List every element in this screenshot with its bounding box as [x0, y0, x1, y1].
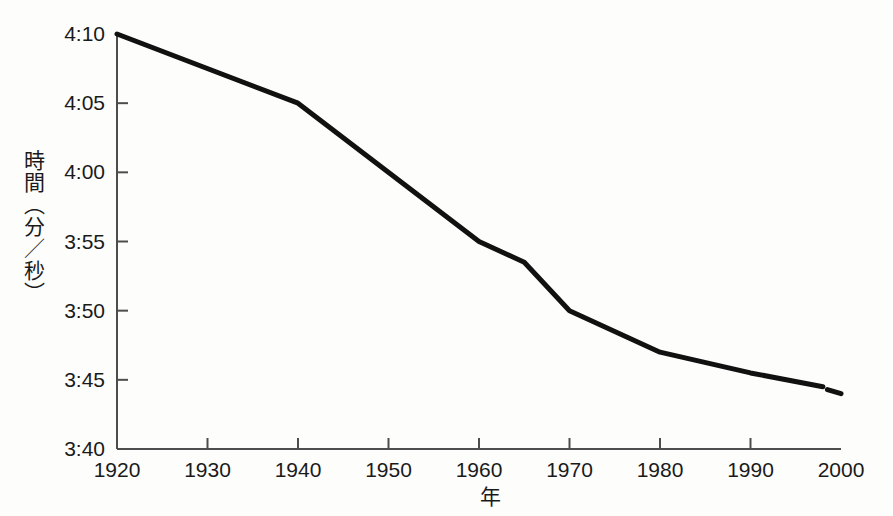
x-axis-title: 年	[462, 480, 518, 510]
chart-background	[0, 0, 893, 516]
y-tick-label: 3:45	[64, 368, 105, 391]
x-tick-label: 1980	[637, 458, 684, 481]
x-tick-label: 1940	[275, 458, 322, 481]
y-tick-label: 3:50	[64, 299, 105, 322]
x-tick-label: 1970	[546, 458, 593, 481]
y-tick-label: 4:10	[64, 22, 105, 45]
y-tick-label: 3:55	[64, 230, 105, 253]
y-tick-label: 4:05	[64, 91, 105, 114]
chart-figure: 3:403:453:503:554:004:054:10 19201930194…	[0, 0, 893, 516]
x-tick-label: 1920	[94, 458, 141, 481]
x-tick-label: 1960	[456, 458, 503, 481]
x-tick-label: 1930	[184, 458, 231, 481]
x-tick-label: 1950	[365, 458, 412, 481]
y-axis-title: 時間（分／秒）	[10, 150, 44, 304]
y-tick-label: 4:00	[64, 160, 105, 183]
x-tick-label: 2000	[818, 458, 865, 481]
line-chart-svg: 3:403:453:503:554:004:054:10 19201930194…	[0, 0, 893, 516]
y-tick-label: 3:40	[64, 437, 105, 460]
x-tick-label: 1990	[727, 458, 774, 481]
